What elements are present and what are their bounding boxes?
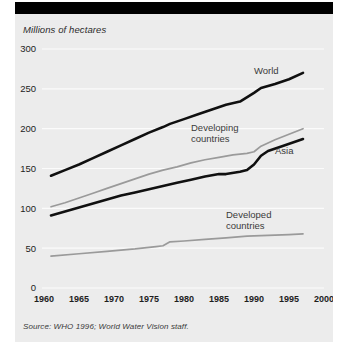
x-tick-label: 1985 — [209, 294, 229, 304]
series-line-asia — [51, 139, 303, 215]
y-tick-label: 200 — [20, 123, 36, 134]
x-tick-label: 1970 — [104, 294, 124, 304]
x-tick-label: 1965 — [69, 294, 89, 304]
x-axis-tick-labels: 196019651970197519801985199019952000 — [34, 294, 334, 304]
y-tick-label: 150 — [20, 163, 36, 174]
y-tick-label: 50 — [25, 243, 36, 254]
series-label-developed-countries: Developedcountries — [226, 209, 271, 231]
x-tick-label: 1980 — [174, 294, 194, 304]
y-axis-tick-labels: 050100150200250300 — [20, 43, 36, 293]
series-label-developing-countries: Developingcountries — [191, 122, 239, 144]
series-labels: WorldDevelopingcountriesAsiaDevelopedcou… — [191, 65, 294, 230]
x-tick-label: 1975 — [139, 294, 159, 304]
plot-area: 050100150200250300 196019651970197519801… — [0, 0, 344, 345]
y-tick-label: 100 — [20, 203, 36, 214]
series-line-developed-countries — [51, 234, 303, 256]
x-tick-label: 1960 — [34, 294, 54, 304]
series-lines — [51, 73, 303, 256]
line-chart-svg: 050100150200250300 196019651970197519801… — [0, 0, 344, 345]
series-line-developing-countries — [51, 129, 303, 207]
series-label-world: World — [254, 65, 279, 76]
right-margin — [333, 0, 344, 345]
x-tick-label: 1990 — [244, 294, 264, 304]
x-tick-label: 1995 — [279, 294, 299, 304]
x-tick-label: 2000 — [314, 294, 334, 304]
left-margin — [0, 0, 15, 345]
series-label-asia: Asia — [275, 145, 294, 156]
chart-figure: Millions of hectares 050100150200250300 … — [0, 0, 344, 345]
y-tick-label: 0 — [31, 282, 36, 293]
y-tick-label: 250 — [20, 83, 36, 94]
top-margin — [0, 0, 344, 2]
source-note: Source: WHO 1996; World Water Vision sta… — [23, 322, 189, 331]
gridlines — [42, 49, 324, 288]
y-tick-label: 300 — [20, 43, 36, 54]
